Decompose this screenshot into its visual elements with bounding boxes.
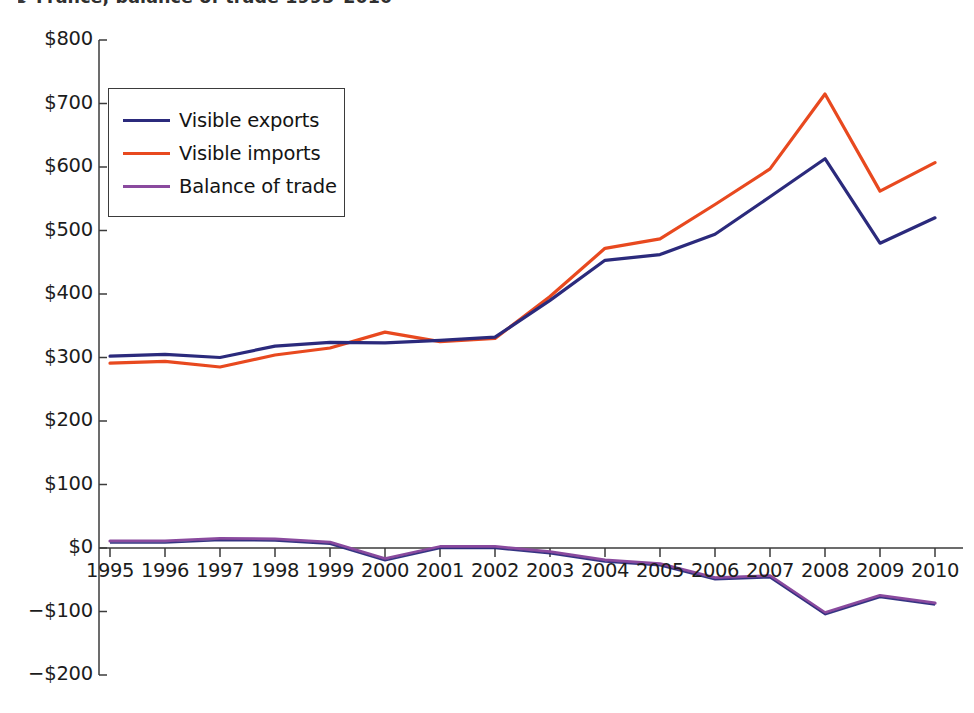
x-axis-tick-label: 2000 bbox=[355, 559, 415, 582]
legend-item-label: Visible exports bbox=[179, 109, 319, 132]
legend-item-visible-exports[interactable]: Visible exports bbox=[123, 106, 319, 134]
x-axis-tick-label: 2010 bbox=[905, 559, 965, 582]
legend-color-swatch bbox=[123, 152, 170, 155]
y-axis-tick-label: $100 bbox=[0, 472, 93, 495]
x-axis-tick-label: 1999 bbox=[300, 559, 360, 582]
x-axis-tick-label: 2009 bbox=[850, 559, 910, 582]
chart-legend: Visible exportsVisible importsBalance of… bbox=[108, 88, 345, 217]
x-axis-tick-label: 2003 bbox=[520, 559, 580, 582]
y-axis-tick-label: $300 bbox=[0, 345, 93, 368]
legend-item-visible-imports[interactable]: Visible imports bbox=[123, 139, 320, 167]
y-axis-tick-label: −$100 bbox=[0, 599, 93, 622]
y-axis-tick-label: $700 bbox=[0, 91, 93, 114]
y-axis-tick-label: −$200 bbox=[0, 662, 93, 685]
y-axis-tick-label: $0 bbox=[0, 535, 93, 558]
legend-item-label: Balance of trade bbox=[179, 175, 337, 198]
x-axis-tick-label: 2008 bbox=[795, 559, 855, 582]
x-axis-tick-label: 2002 bbox=[465, 559, 525, 582]
y-axis-tick-label: $200 bbox=[0, 408, 93, 431]
x-axis-tick-label: 2006 bbox=[685, 559, 745, 582]
y-axis-tick-label: $500 bbox=[0, 218, 93, 241]
legend-color-swatch bbox=[123, 185, 170, 188]
legend-color-swatch bbox=[123, 119, 170, 122]
legend-item-label: Visible imports bbox=[179, 142, 320, 165]
y-axis-tick-label: $600 bbox=[0, 154, 93, 177]
x-axis-tick-label: 2005 bbox=[630, 559, 690, 582]
x-axis-tick-label: 2007 bbox=[740, 559, 800, 582]
x-axis-tick-label: 2004 bbox=[575, 559, 635, 582]
y-axis-tick-label: $400 bbox=[0, 281, 93, 304]
y-axis-tick-label: $800 bbox=[0, 27, 93, 50]
x-axis-tick-label: 1996 bbox=[135, 559, 195, 582]
x-axis-tick-label: 1997 bbox=[190, 559, 250, 582]
chart-figure: ▸ France, balance of trade 1995–2010 $80… bbox=[0, 0, 974, 713]
x-axis-tick-label: 1995 bbox=[80, 559, 140, 582]
legend-item-balance-of-trade[interactable]: Balance of trade bbox=[123, 172, 337, 200]
x-axis-tick-label: 1998 bbox=[245, 559, 305, 582]
x-axis-tick-label: 2001 bbox=[410, 559, 470, 582]
